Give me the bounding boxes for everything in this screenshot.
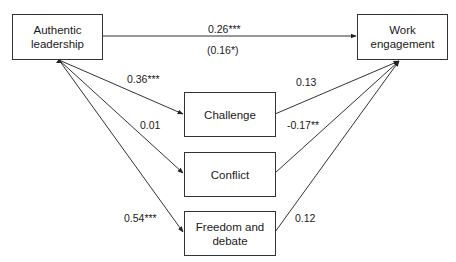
b-path-challenge-coefficient: 0.13 [296, 76, 316, 88]
node-label-line2: debate [196, 234, 264, 248]
a-path-conflict-coefficient: 0.01 [140, 119, 160, 131]
b-path-conflict-coefficient: -0.17** [287, 119, 319, 131]
direct-path-coefficient: 0.26*** [208, 23, 241, 35]
mediation-diagram: Authentic leadership Work engagement Cha… [0, 0, 456, 262]
node-authentic-leadership: Authentic leadership [12, 14, 103, 60]
a-path-conflict-arrow [59, 60, 183, 173]
b-path-freedom-arrow [275, 61, 399, 232]
node-freedom-and-debate: Freedom and debate [184, 211, 276, 256]
node-label-line2: engagement [371, 37, 435, 51]
node-label: Challenge [204, 108, 256, 122]
a-path-freedom-arrow [59, 60, 183, 232]
node-work-engagement: Work engagement [357, 14, 448, 60]
node-label-line1: Freedom and [196, 220, 264, 234]
node-conflict: Conflict [184, 152, 276, 197]
b-path-freedom-coefficient: 0.12 [295, 212, 315, 224]
node-label-line1: Work [371, 23, 435, 37]
node-label: Conflict [211, 168, 249, 182]
node-challenge: Challenge [184, 92, 276, 137]
a-path-challenge-coefficient: 0.36*** [127, 73, 160, 85]
node-label-line1: Authentic [31, 23, 84, 37]
b-path-conflict-arrow [275, 61, 399, 173]
a-path-freedom-coefficient: 0.54*** [124, 212, 157, 224]
a-path-challenge-arrow [59, 60, 183, 114]
direct-path-coefficient-controlled: (0.16*) [207, 44, 239, 56]
node-label-line2: leadership [31, 37, 84, 51]
